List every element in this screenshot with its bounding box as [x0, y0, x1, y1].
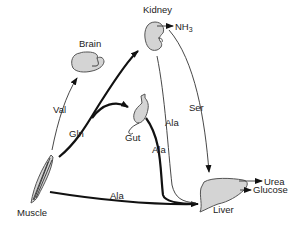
- ala-muscle-label: Ala: [110, 190, 124, 201]
- val-label: Val: [53, 104, 66, 115]
- ser-label: Ser: [189, 102, 204, 113]
- gln-label: Gln: [69, 128, 84, 139]
- liver-label: Liver: [213, 204, 234, 215]
- brain-organ: [72, 52, 104, 72]
- muscle-label: Muscle: [17, 207, 47, 218]
- gut-organ: [129, 94, 148, 134]
- muscle-organ: [31, 155, 53, 203]
- ala-kidney-liver-arrow: [157, 56, 196, 203]
- glucose-label: Glucose: [253, 184, 288, 195]
- gut-label: Gut: [125, 132, 141, 143]
- ala-kidney-label: Ala: [165, 117, 179, 128]
- nh3-label: NH3: [175, 21, 193, 33]
- ala-gut-liver-arrow: [146, 118, 198, 204]
- ser-arrow: [169, 30, 209, 172]
- brain-label: Brain: [79, 38, 101, 49]
- amino-acid-flux-diagram: Kidney Brain Gut Muscle Liver NH3 Urea G…: [0, 0, 293, 230]
- ala-gut-label: Ala: [152, 144, 166, 155]
- kidney-label: Kidney: [143, 4, 172, 15]
